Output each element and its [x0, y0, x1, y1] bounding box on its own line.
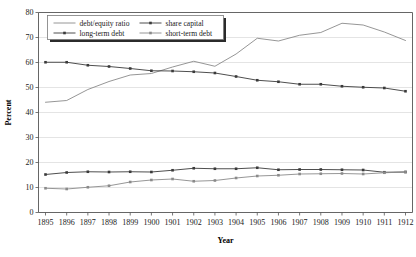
legend-item-label: short-term debt	[166, 29, 213, 38]
y-axis-ticks: 01020304050607080	[26, 8, 39, 217]
data-point-marker	[171, 169, 174, 172]
y-tick-label: 60	[26, 58, 34, 67]
data-point-marker	[383, 87, 386, 90]
data-point-marker	[44, 173, 47, 176]
x-tick-label: 1905	[249, 218, 265, 227]
x-tick-label: 1904	[228, 218, 244, 227]
data-point-marker	[277, 80, 280, 83]
x-tick-label: 1906	[270, 218, 286, 227]
data-point-marker	[256, 175, 259, 178]
y-tick-label: 30	[26, 133, 34, 142]
x-tick-label: 1910	[355, 218, 371, 227]
x-tick-label: 1912	[398, 218, 414, 227]
data-point-marker	[214, 167, 217, 170]
data-point-marker	[235, 177, 238, 180]
data-point-marker	[298, 168, 301, 171]
data-point-marker	[362, 173, 365, 176]
data-point-marker	[319, 83, 322, 86]
y-tick-label: 40	[26, 108, 34, 117]
data-point-marker	[87, 64, 90, 67]
data-point-marker	[341, 168, 344, 171]
data-point-marker	[129, 181, 132, 184]
data-point-marker	[108, 184, 111, 187]
y-tick-label: 20	[26, 158, 34, 167]
data-point-marker	[383, 171, 386, 174]
data-point-marker	[214, 72, 217, 75]
data-point-marker	[341, 85, 344, 88]
data-point-marker	[150, 179, 153, 182]
y-tick-label: 50	[26, 83, 34, 92]
y-tick-label: 80	[26, 8, 34, 17]
data-point-marker	[319, 172, 322, 175]
data-point-marker	[65, 171, 68, 174]
data-point-marker	[87, 170, 90, 173]
x-tick-label: 1902	[186, 218, 202, 227]
x-tick-label: 1903	[207, 218, 223, 227]
x-tick-label: 1896	[59, 218, 75, 227]
y-tick-label: 70	[26, 33, 34, 42]
data-point-marker	[298, 173, 301, 176]
data-point-marker	[108, 65, 111, 68]
legend-marker-swatch	[149, 32, 152, 35]
data-point-marker	[277, 168, 280, 171]
legend-item-label: long-term debt	[80, 29, 126, 38]
series-line	[46, 172, 406, 189]
legend-item-label: share capital	[166, 19, 204, 28]
data-point-marker	[362, 169, 365, 172]
data-point-marker	[171, 178, 174, 181]
data-point-marker	[235, 167, 238, 170]
x-tick-label: 1898	[101, 218, 117, 227]
data-point-marker	[65, 61, 68, 64]
x-tick-label: 1900	[143, 218, 159, 227]
data-point-marker	[87, 186, 90, 189]
x-tick-label: 1895	[38, 218, 54, 227]
x-tick-label: 1907	[292, 218, 308, 227]
data-point-marker	[44, 187, 47, 190]
data-point-marker	[214, 179, 217, 182]
data-point-marker	[150, 69, 153, 72]
legend-item-label: debt/equity ratio	[80, 19, 130, 28]
data-point-marker	[192, 70, 195, 73]
data-point-marker	[319, 168, 322, 171]
data-point-marker	[65, 188, 68, 191]
x-tick-label: 1899	[122, 218, 138, 227]
x-tick-label: 1911	[376, 218, 392, 227]
data-point-marker	[192, 167, 195, 170]
chart-legend: debt/equity ratioshare capitallong-term …	[48, 16, 227, 43]
data-point-marker	[256, 79, 259, 82]
data-point-marker	[404, 171, 407, 174]
x-axis-title: Year	[218, 236, 234, 245]
x-axis-ticks: 1895189618971898189919001901190219031904…	[38, 213, 414, 227]
data-point-marker	[192, 180, 195, 183]
x-tick-label: 1901	[165, 218, 181, 227]
series-line	[46, 62, 406, 91]
data-point-marker	[108, 171, 111, 174]
data-point-marker	[129, 67, 132, 70]
data-point-marker	[129, 170, 132, 173]
x-tick-label: 1908	[313, 218, 329, 227]
data-point-marker	[341, 172, 344, 175]
y-tick-label: 0	[30, 208, 34, 217]
data-point-marker	[404, 90, 407, 93]
x-axis-title-text: Year	[218, 236, 234, 245]
y-axis-title: Percent	[4, 99, 13, 125]
x-tick-label: 1897	[80, 218, 96, 227]
series-long-term-debt	[44, 166, 407, 175]
data-point-marker	[171, 70, 174, 73]
legend-marker-swatch	[63, 32, 66, 35]
data-point-marker	[298, 83, 301, 86]
x-tick-label: 1909	[334, 218, 350, 227]
data-point-marker	[235, 75, 238, 78]
data-point-marker	[150, 171, 153, 174]
y-axis-title-text: Percent	[4, 99, 13, 125]
data-point-marker	[44, 61, 47, 64]
chart-container: 01020304050607080 1895189618971898189919…	[0, 0, 416, 257]
y-tick-label: 10	[26, 183, 34, 192]
data-point-marker	[362, 86, 365, 89]
data-point-marker	[256, 166, 259, 169]
data-series-group	[44, 23, 407, 190]
legend-marker-swatch	[149, 22, 152, 25]
line-chart: 01020304050607080 1895189618971898189919…	[0, 0, 416, 257]
data-point-marker	[277, 174, 280, 177]
